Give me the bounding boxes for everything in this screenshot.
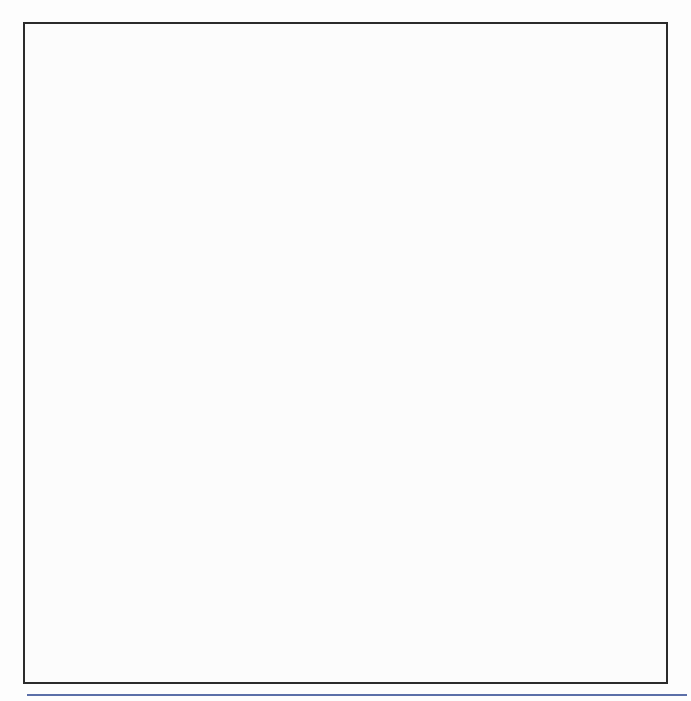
footer-rule: [27, 694, 687, 696]
figure-frame: [23, 22, 668, 684]
chart-svg-bottom: [25, 364, 670, 684]
chart-panel-top: [25, 86, 670, 351]
chart-panel-bottom: [25, 364, 670, 684]
chart-svg-top: [25, 86, 670, 351]
